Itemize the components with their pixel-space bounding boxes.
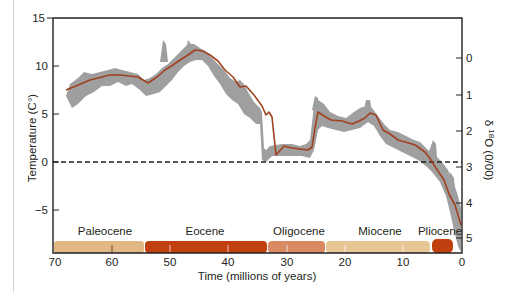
x-tick-30: 30 [281, 256, 294, 268]
y-axis-title: Temperature (C°) [26, 94, 38, 182]
epoch-label-paleocene: Paleocene [78, 225, 132, 237]
y-tick-minus5: −5 [35, 204, 48, 216]
epoch-band-eocene [145, 241, 267, 253]
x-tick-40: 40 [222, 256, 235, 268]
y-tick-15: 15 [32, 12, 45, 24]
y2-tick-1: 1 [466, 89, 472, 101]
y2-tick-4: 4 [466, 197, 473, 209]
epoch-band-paleocene [54, 241, 144, 253]
x-tick-20: 20 [339, 256, 352, 268]
epoch-label-eocene: Eocene [185, 225, 224, 237]
y-tick-10: 10 [35, 60, 48, 72]
x-tick-70: 70 [49, 256, 62, 268]
epoch-label-miocene: Miocene [358, 225, 401, 237]
x-tick-0: 0 [459, 256, 465, 268]
y-tick-5: 5 [42, 108, 48, 120]
temperature-chart: 15 10 5 0 −5 0 1 2 3 4 5 70 60 50 40 30 … [0, 0, 515, 292]
y2-tick-2: 2 [466, 125, 472, 137]
epoch-bands [54, 239, 453, 253]
y2-tick-3: 3 [466, 161, 472, 173]
y2-axis-title: δ 18O (0/00) [483, 120, 496, 181]
epoch-band-pliocene [432, 239, 453, 253]
x-axis-title: Time (millions of years) [198, 270, 317, 282]
x-tick-60: 60 [106, 256, 119, 268]
y2-tick-0: 0 [466, 52, 472, 64]
epoch-label-pliocene: Pliocene [418, 225, 462, 237]
y2-tick-5: 5 [466, 232, 472, 244]
x-tick-50: 50 [164, 256, 177, 268]
epoch-band-oligocene [268, 241, 325, 253]
epoch-label-oligocene: Oligocene [273, 225, 325, 237]
epoch-band-miocene [326, 241, 430, 253]
y-tick-0: 0 [42, 156, 48, 168]
raw-data-scatter [66, 40, 461, 252]
x-tick-10: 10 [397, 256, 410, 268]
